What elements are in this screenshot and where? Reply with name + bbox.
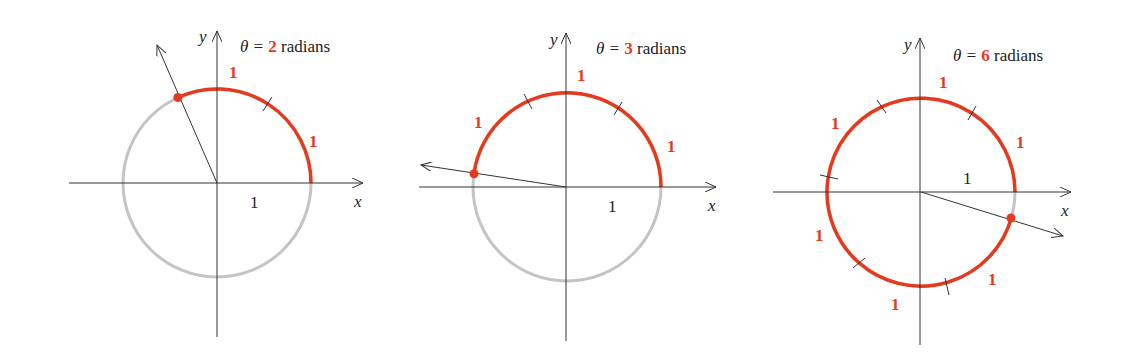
unit-label: 1 [963,169,972,188]
arc-label: 1 [988,270,997,289]
arc-label: 1 [229,63,238,82]
theta-caption: θ = 6 radians [953,46,1043,65]
arc-label: 1 [815,226,824,245]
x-label: x [707,196,716,215]
panel-theta-6: 1 1 1 1 1 1 1 x y θ = 6 radians [773,35,1071,345]
arc-label: 1 [1016,133,1025,152]
unit-label: 1 [608,197,617,216]
terminal-point [173,93,182,102]
terminal-point [1007,214,1016,223]
y-label: y [197,27,207,46]
arc-length-2 [178,89,311,183]
arc-label: 1 [309,132,318,151]
terminal-ray [421,165,566,187]
arc-label: 1 [474,113,483,132]
theta-caption: θ = 2 radians [240,37,330,56]
arc-label: 1 [667,137,676,156]
terminal-ray [921,192,1063,236]
terminal-point [470,169,479,178]
x-label: x [1060,201,1069,220]
terminal-ray [157,45,217,183]
unit-label: 1 [250,193,259,212]
theta-caption: θ = 3 radians [596,39,686,58]
radian-diagrams: 1 1 1 x y θ = 2 radians 1 1 1 1 x y θ = … [0,0,1121,360]
arc-label: 1 [577,66,586,85]
arc-label: 1 [939,73,948,92]
x-label: x [353,192,362,211]
arc-label: 1 [831,114,840,133]
arc-length-3 [474,93,661,187]
panel-theta-2: 1 1 1 x y θ = 2 radians [69,27,363,337]
y-label: y [548,30,558,49]
arc-label: 1 [891,295,900,314]
y-label: y [902,35,912,54]
panel-theta-3: 1 1 1 1 x y θ = 3 radians [419,30,716,341]
